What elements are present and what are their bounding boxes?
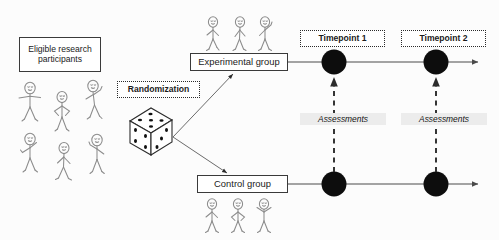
experimental-group-box: Experimental group bbox=[190, 53, 288, 71]
stick-figure-group-icon bbox=[206, 199, 272, 233]
timepoint-node bbox=[424, 172, 449, 197]
stick-figure-group-icon bbox=[207, 17, 273, 51]
timepoint-node bbox=[322, 50, 347, 75]
experimental-group-label: Experimental group bbox=[198, 57, 279, 68]
assessments-label-1: Assessments bbox=[300, 113, 386, 125]
timepoint-1-label: Timepoint 1 bbox=[318, 34, 366, 44]
timepoint-2-label: Timepoint 2 bbox=[419, 34, 467, 44]
diagram-canvas: Eligible research participants Randomiza… bbox=[0, 0, 499, 240]
control-group-box: Control group bbox=[197, 175, 288, 193]
stick-figure-group-icon bbox=[19, 80, 104, 180]
eligible-participants-label: Eligible research participants bbox=[20, 45, 100, 65]
timepoint-2-box: Timepoint 2 bbox=[401, 30, 486, 47]
die-icon bbox=[130, 108, 172, 155]
randomization-label: Randomization bbox=[128, 85, 190, 95]
control-group-label: Control group bbox=[214, 179, 271, 190]
timepoint-1-box: Timepoint 1 bbox=[300, 30, 385, 47]
randomization-box: Randomization bbox=[117, 81, 200, 98]
control-timeline bbox=[288, 172, 478, 197]
timepoint-node bbox=[424, 50, 449, 75]
assessments-label-2: Assessments bbox=[401, 113, 487, 125]
timepoint-node bbox=[322, 172, 347, 197]
experimental-timeline bbox=[288, 50, 478, 75]
eligible-participants-box: Eligible research participants bbox=[19, 37, 101, 72]
